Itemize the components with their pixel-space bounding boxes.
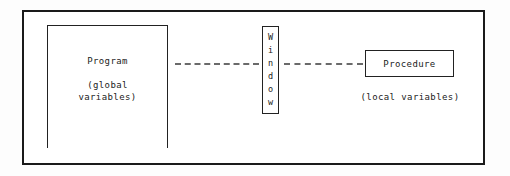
program-sub-line-2: variables) <box>47 91 168 103</box>
window-letter-3: n <box>268 57 273 70</box>
window-letter-4: d <box>268 70 273 83</box>
program-sub-line-1: (global <box>47 79 168 91</box>
window-box: W i n d o w <box>262 26 279 114</box>
window-letter-1: W <box>268 31 273 44</box>
window-letter-2: i <box>268 44 273 57</box>
diagram-canvas: Program (global variables) W i n d o w P… <box>0 0 510 176</box>
procedure-label: Procedure <box>383 58 435 70</box>
dashed-connector-left <box>175 63 259 65</box>
procedure-sub-label: (local variables) <box>340 91 480 103</box>
program-label: Program <box>47 55 168 67</box>
window-letter-5: o <box>268 83 273 96</box>
dashed-connector-right <box>284 63 363 65</box>
program-sub-label: (global variables) <box>47 79 168 103</box>
procedure-box: Procedure <box>365 50 454 77</box>
window-letter-6: w <box>268 96 273 109</box>
